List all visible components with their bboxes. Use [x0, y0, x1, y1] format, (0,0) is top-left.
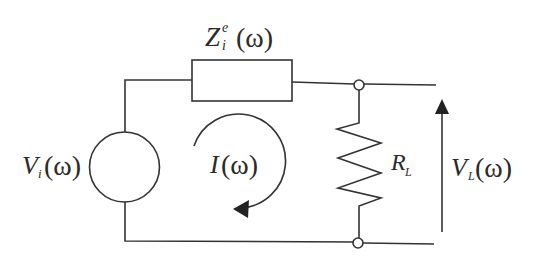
voltage-source: [90, 132, 160, 202]
arrowhead-icon: [233, 200, 249, 218]
load-resistor-label: R L: [390, 149, 412, 179]
bottom-terminal-node: [353, 238, 363, 248]
impedance-label: Z e i (ω): [205, 20, 273, 53]
svg-text:i: i: [38, 166, 42, 181]
circuit-diagram: Z e i (ω) V i (ω) I (ω) R L V L (ω): [0, 0, 543, 269]
svg-text:I: I: [209, 150, 220, 179]
bottom-wire-right: [363, 243, 434, 244]
current-label: I (ω): [209, 149, 258, 180]
source-voltage-label: V i (ω): [22, 150, 81, 181]
impedance-box: [192, 60, 292, 101]
svg-text:e: e: [222, 20, 228, 35]
top-terminal-node: [354, 80, 364, 90]
load-voltage-label: V L (ω): [451, 152, 512, 183]
svg-text:L: L: [467, 169, 475, 183]
svg-text:Z: Z: [205, 22, 221, 52]
svg-text:(ω): (ω): [221, 149, 258, 180]
load-resistor: [337, 90, 381, 238]
svg-text:i: i: [222, 38, 226, 53]
arrow-up-icon: [435, 99, 449, 114]
svg-text:L: L: [404, 165, 412, 179]
output-voltage-arrow: [435, 99, 449, 232]
svg-text:(ω): (ω): [475, 152, 512, 183]
svg-text:R: R: [390, 149, 406, 175]
svg-text:(ω): (ω): [236, 22, 273, 53]
svg-text:(ω): (ω): [44, 150, 81, 181]
